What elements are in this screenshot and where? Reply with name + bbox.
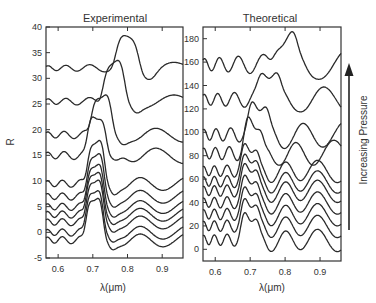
left-plot-area [46,27,183,258]
spectrum-curve [46,36,183,80]
right-plot-area [203,27,341,261]
spectrum-curve [203,144,341,183]
spectrum-curve [46,60,183,113]
spectrum-curve [203,154,341,193]
spectrum-curve [203,32,341,80]
pressure-arrow-icon [345,63,354,230]
spectrum-curve [46,191,183,242]
spectrum-curve [46,95,183,145]
spectrum-curve [46,141,183,195]
spectrum-curve [46,154,183,208]
spectrum-curve [203,102,341,149]
chart-canvas [0,0,376,303]
spectrum-curve [203,213,341,252]
spectrum-curve [46,117,183,164]
